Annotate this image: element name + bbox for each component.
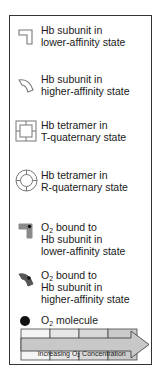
label-line: lower-affinity state: [41, 245, 125, 257]
label-line: Hb subunit in: [41, 233, 125, 245]
o2-concentration-gradient-bar: Increasing O2 Concentration: [21, 328, 139, 360]
label-line: O2 bound to: [41, 269, 130, 281]
label-line: higher-affinity state: [41, 85, 130, 97]
label-line: higher-affinity state: [41, 293, 130, 305]
gradient-label: Increasing O2 Concentration: [26, 339, 126, 370]
hb-subunit-lower-affinity-icon: [17, 28, 35, 46]
legend-box: Hb subunit in lower-affinity state Hb su…: [9, 15, 152, 365]
label-line: Hb tetramer in: [41, 119, 126, 131]
label-line: Hb tetramer in: [41, 169, 128, 181]
o2-molecule-icon: [19, 315, 31, 327]
hb-tetramer-r-state-icon: [15, 169, 38, 192]
label-line: T-quaternary state: [41, 131, 126, 143]
label-line: lower-affinity state: [41, 36, 125, 48]
label-line: O2 molecule: [41, 314, 98, 326]
label-line: Hb subunit in: [41, 24, 125, 36]
label-line: R-quaternary state: [41, 181, 128, 193]
o2-bound-higher-affinity-icon: [17, 270, 35, 288]
label-line: Hb subunit in: [41, 281, 130, 293]
o2-bound-lower-affinity-icon: [17, 222, 35, 240]
label-line: O2 bound to: [41, 221, 125, 233]
hb-subunit-higher-affinity-icon: [17, 76, 35, 94]
hb-tetramer-t-state-icon: [15, 120, 37, 142]
label-line: Hb subunit in: [41, 73, 130, 85]
